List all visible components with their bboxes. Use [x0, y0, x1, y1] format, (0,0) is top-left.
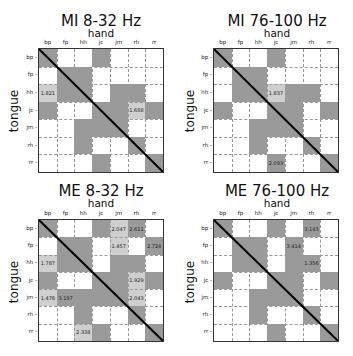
- x-tick-label: fp: [57, 210, 75, 216]
- heatmap-cell: [57, 119, 75, 137]
- heatmap-cell: [232, 84, 250, 102]
- y-tick-label: rh -: [21, 142, 37, 148]
- heatmap-grid: 2.0472.6111.4572.7241.7871.9291.4783.197…: [38, 219, 164, 342]
- heatmap-cell: 2.611: [128, 220, 146, 237]
- heatmap-cell: [128, 49, 146, 67]
- y-axis-label: tongue: [183, 81, 197, 141]
- heatmap-cell: [267, 49, 285, 67]
- y-tick-label: fp -: [196, 242, 212, 248]
- heatmap-cell: [214, 119, 232, 137]
- heatmap-cell: 2.047: [110, 220, 128, 237]
- heatmap-cell: [39, 102, 57, 120]
- heatmap-cell: [145, 154, 163, 172]
- heatmap-cell: [57, 272, 75, 289]
- heatmap-cell: [232, 272, 250, 289]
- heatmap-cell: [145, 49, 163, 67]
- y-tick-label: hh -: [21, 89, 37, 95]
- heatmap-cell: [320, 154, 338, 172]
- heatmap-cell: [39, 119, 57, 137]
- heatmap-cell: [110, 324, 128, 341]
- heatmap-cell: [232, 255, 250, 272]
- heatmap-cell: [285, 49, 303, 67]
- heatmap-cell: [74, 49, 92, 67]
- heatmap-cell: [214, 289, 232, 306]
- heatmap-cell: 2.093: [267, 154, 285, 172]
- heatmap-cell: 1.821: [39, 84, 57, 102]
- heatmap-cell: [110, 272, 128, 289]
- heatmap-cell: [74, 119, 92, 137]
- heatmap-cell: [92, 119, 110, 137]
- heatmap-cell: [74, 137, 92, 155]
- heatmap-cell: 1.929: [128, 272, 146, 289]
- heatmap-cell: [303, 272, 321, 289]
- heatmap-cell: [267, 237, 285, 254]
- heatmap-cell: [320, 255, 338, 272]
- heatmap-cell: 1.457: [110, 237, 128, 254]
- heatmap-cell: [267, 102, 285, 120]
- heatmap-cell: [214, 220, 232, 237]
- heatmap-cell: [303, 237, 321, 254]
- heatmap-cell: [249, 102, 267, 120]
- heatmap-cell: [285, 306, 303, 323]
- heatmap-cell: [110, 154, 128, 172]
- heatmap-cell: [232, 49, 250, 67]
- heatmap-cell: [214, 67, 232, 85]
- y-tick-label: jc -: [21, 277, 37, 283]
- heatmap-cell: [39, 220, 57, 237]
- heatmap-cell: [57, 154, 75, 172]
- heatmap-cell: [249, 220, 267, 237]
- gridline: [39, 324, 163, 325]
- y-tick-label: hh -: [21, 259, 37, 265]
- x-axis-label: hand: [0, 197, 176, 209]
- x-tick-label: hh: [74, 210, 92, 216]
- heatmap-cell: [267, 272, 285, 289]
- heatmap-cell: [303, 289, 321, 306]
- heatmap-cell: 2.338: [74, 324, 92, 341]
- y-axis-label: tongue: [7, 81, 21, 141]
- y-tick-label: fp -: [196, 71, 212, 77]
- heatmap-cell: [232, 306, 250, 323]
- y-tick-label: fp -: [21, 71, 37, 77]
- heatmap-cell: [128, 255, 146, 272]
- heatmap-cell: [110, 306, 128, 323]
- heatmap-cell: [249, 255, 267, 272]
- heatmap-cell: [267, 67, 285, 85]
- heatmap-cell: [285, 137, 303, 155]
- heatmap-cell: [320, 67, 338, 85]
- heatmap-cell: [39, 272, 57, 289]
- heatmap-cell: [92, 237, 110, 254]
- heatmap-cell: [57, 137, 75, 155]
- heatmap-cell: [249, 324, 267, 341]
- heatmap-cell: [92, 84, 110, 102]
- heatmap-cell: [320, 306, 338, 323]
- panel-me-8-32: ME 8-32 Hz hand tongue 2.0472.6111.4572.…: [0, 178, 176, 356]
- heatmap-cell: [128, 119, 146, 137]
- y-axis-label: tongue: [183, 252, 197, 312]
- heatmap-cell: 3.414: [285, 237, 303, 254]
- heatmap-cell: 3.143: [303, 220, 321, 237]
- y-tick-label: hh -: [196, 89, 212, 95]
- heatmap-cell: [145, 84, 163, 102]
- y-tick-label: fp -: [21, 242, 37, 248]
- x-tick-label: jc: [92, 39, 110, 45]
- y-tick-label: rr -: [21, 328, 37, 334]
- x-tick-label: jm: [285, 210, 303, 216]
- heatmap-cell: [57, 220, 75, 237]
- heatmap-grid: 3.1433.4141.356: [213, 219, 339, 342]
- heatmap-cell: [232, 119, 250, 137]
- y-tick-label: rh -: [196, 311, 212, 317]
- heatmap-cell: [39, 137, 57, 155]
- heatmap-cell: [249, 237, 267, 254]
- heatmap-cell: [92, 220, 110, 237]
- heatmap-cell: [39, 324, 57, 341]
- heatmap-cell: [92, 154, 110, 172]
- x-tick-label: hh: [249, 210, 267, 216]
- heatmap-cell: [128, 154, 146, 172]
- x-tick-label: jc: [267, 39, 285, 45]
- heatmap-cell: [232, 102, 250, 120]
- heatmap-cell: [110, 255, 128, 272]
- heatmap-cell: [232, 289, 250, 306]
- gridline: [214, 324, 338, 325]
- heatmap-cell: [57, 67, 75, 85]
- heatmap-cell: [320, 272, 338, 289]
